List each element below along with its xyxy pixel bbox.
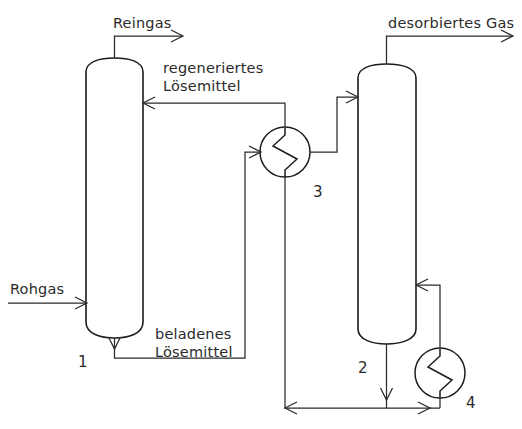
stream-exchanger3-to-desorber bbox=[310, 91, 358, 152]
stream-reingas bbox=[115, 30, 184, 58]
stream-desorber-bottom bbox=[381, 344, 393, 408]
process-flow-diagram: Reingas regeneriertes Lösemittel desorbi… bbox=[0, 0, 522, 429]
label-desorbiertes-gas: desorbiertes Gas bbox=[388, 15, 514, 31]
equipment-tag-1: 1 bbox=[78, 353, 88, 371]
desorber-feed-pipe bbox=[310, 97, 357, 152]
stream-regeneriertes-loesemittel bbox=[143, 97, 285, 127]
label-reingas: Reingas bbox=[113, 15, 172, 31]
equipment-tag-2: 2 bbox=[358, 359, 368, 377]
stream-rohgas bbox=[8, 297, 87, 309]
equipment-tag-4: 4 bbox=[466, 394, 476, 412]
reboiler-return-pipe bbox=[417, 285, 440, 348]
label-regeneriertes-loesemittel-line2: Lösemittel bbox=[163, 78, 241, 94]
label-beladenes-loesemittel-line1: beladenes bbox=[155, 326, 232, 342]
label-beladenes-loesemittel-line2: Lösemittel bbox=[155, 344, 233, 360]
heat-exchanger-3 bbox=[260, 127, 310, 177]
absorber-column bbox=[86, 58, 143, 338]
regeneriertes-loesemittel-pipe bbox=[144, 103, 285, 127]
label-regeneriertes-loesemittel-line1: regeneriertes bbox=[163, 60, 263, 76]
reingas-pipe bbox=[115, 36, 183, 58]
label-rohgas: Rohgas bbox=[10, 281, 64, 297]
absorber-vessel-shell bbox=[86, 58, 143, 338]
desorber-vessel-shell bbox=[358, 64, 416, 344]
heat-exchanger-4 bbox=[415, 348, 465, 398]
desorber-column bbox=[358, 64, 416, 344]
stream-desorbiertes-gas bbox=[387, 30, 514, 64]
equipment-tag-3: 3 bbox=[313, 183, 323, 201]
desorbiertes-gas-pipe bbox=[387, 36, 513, 64]
flowsheet-canvas: Reingas regeneriertes Lösemittel desorbi… bbox=[0, 0, 522, 429]
